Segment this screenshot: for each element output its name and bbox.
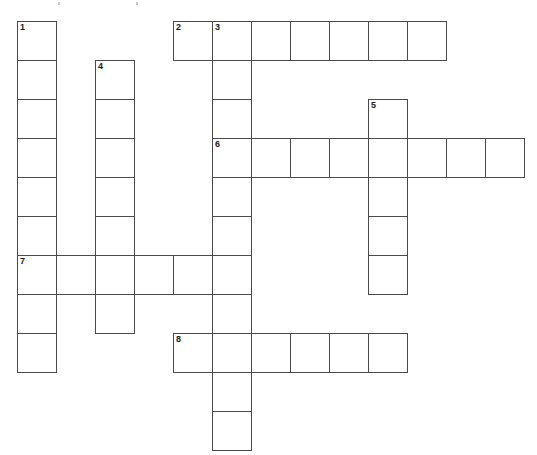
crossword-cell[interactable] (212, 255, 252, 295)
crossword-cell[interactable] (212, 177, 252, 217)
crossword-cell[interactable] (329, 21, 369, 61)
crossword-cell[interactable] (290, 333, 330, 373)
cell-number-6: 6 (215, 139, 220, 150)
crossword-grid[interactable]: 17423658 (0, 0, 537, 455)
crossword-cell[interactable] (290, 21, 330, 61)
crossword-cell[interactable] (17, 60, 57, 100)
crossword-cell[interactable] (56, 255, 96, 295)
crossword-page: 17423658 (0, 0, 537, 455)
crossword-cell[interactable] (17, 333, 57, 373)
crossword-cell[interactable] (134, 255, 174, 295)
crossword-cell[interactable] (251, 138, 291, 178)
crossword-cell[interactable] (251, 333, 291, 373)
crossword-cell[interactable] (173, 255, 213, 295)
cell-number-5: 5 (371, 100, 376, 111)
crossword-cell[interactable] (368, 216, 408, 256)
cell-number-8: 8 (176, 334, 181, 345)
crossword-cell[interactable] (95, 216, 135, 256)
crossword-cell[interactable]: 8 (173, 333, 213, 373)
cell-number-3: 3 (215, 22, 220, 33)
crossword-cell[interactable] (212, 411, 252, 451)
crossword-cell[interactable] (329, 138, 369, 178)
crossword-cell[interactable] (17, 294, 57, 334)
crossword-cell[interactable] (368, 255, 408, 295)
crossword-cell[interactable] (95, 294, 135, 334)
crossword-cell[interactable] (95, 99, 135, 139)
crossword-cell[interactable] (485, 138, 525, 178)
crossword-cell[interactable]: 4 (95, 60, 135, 100)
scan-artifact (136, 2, 138, 5)
crossword-cell[interactable] (407, 138, 447, 178)
crossword-cell[interactable] (407, 21, 447, 61)
crossword-cell[interactable] (95, 255, 135, 295)
crossword-cell[interactable] (368, 138, 408, 178)
crossword-cell[interactable] (212, 60, 252, 100)
crossword-cell[interactable] (17, 216, 57, 256)
crossword-cell[interactable] (290, 138, 330, 178)
crossword-cell[interactable] (212, 216, 252, 256)
crossword-cell[interactable]: 1 (17, 21, 57, 61)
cell-number-4: 4 (98, 61, 103, 72)
crossword-cell[interactable]: 5 (368, 99, 408, 139)
crossword-cell[interactable] (212, 372, 252, 412)
crossword-cell[interactable]: 6 (212, 138, 252, 178)
crossword-cell[interactable] (17, 177, 57, 217)
crossword-cell[interactable] (17, 138, 57, 178)
cell-number-1: 1 (20, 22, 25, 33)
crossword-cell[interactable] (368, 21, 408, 61)
crossword-cell[interactable] (95, 138, 135, 178)
crossword-cell[interactable]: 7 (17, 255, 57, 295)
scan-artifact (58, 2, 60, 5)
crossword-cell[interactable] (251, 21, 291, 61)
crossword-cell[interactable] (368, 333, 408, 373)
crossword-cell[interactable] (95, 177, 135, 217)
crossword-cell[interactable] (329, 333, 369, 373)
crossword-cell[interactable] (446, 138, 486, 178)
crossword-cell[interactable] (212, 333, 252, 373)
crossword-cell[interactable]: 3 (212, 21, 252, 61)
crossword-cell[interactable]: 2 (173, 21, 213, 61)
crossword-cell[interactable] (212, 294, 252, 334)
crossword-cell[interactable] (17, 99, 57, 139)
crossword-cell[interactable] (368, 177, 408, 217)
cell-number-2: 2 (176, 22, 181, 33)
crossword-cell[interactable] (212, 99, 252, 139)
cell-number-7: 7 (20, 256, 25, 267)
